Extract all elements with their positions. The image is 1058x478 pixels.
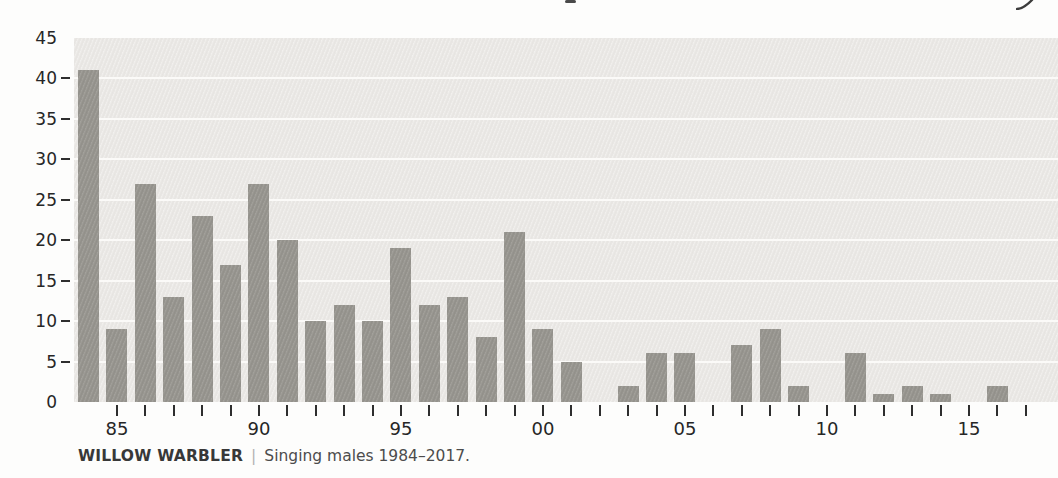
x-tick-2013 (911, 405, 913, 416)
x-tick-1989 (230, 405, 232, 416)
y-tick-10 (61, 320, 70, 322)
bar-2007 (731, 345, 752, 402)
bar-2014 (930, 394, 951, 402)
bar-2005 (674, 353, 695, 402)
cropped-text-artifact-right (1016, 0, 1034, 10)
bar-2012 (873, 394, 894, 402)
chart-caption: WILLOW WARBLER|Singing males 1984–2017. (78, 446, 470, 466)
x-label-15: 15 (947, 418, 991, 440)
y-tick-20 (61, 239, 70, 241)
y-label-10: 10 (7, 311, 57, 331)
bar-1987 (163, 297, 184, 402)
bar-2001 (561, 362, 582, 402)
x-tick-2002 (599, 405, 601, 416)
bar-1986 (135, 184, 156, 402)
y-label-45: 45 (7, 28, 57, 48)
bar-2009 (788, 386, 809, 402)
gridline-40 (74, 77, 1058, 79)
gridline-25 (74, 199, 1058, 201)
y-label-0: 0 (7, 392, 57, 412)
y-label-15: 15 (7, 271, 57, 291)
gridline-20 (74, 239, 1058, 241)
x-tick-2006 (712, 405, 714, 416)
y-tick-5 (61, 361, 70, 363)
y-tick-15 (61, 280, 70, 282)
caption-separator: | (251, 447, 256, 465)
x-label-90: 90 (237, 418, 281, 440)
x-tick-1988 (201, 405, 203, 416)
x-label-05: 05 (663, 418, 707, 440)
bar-2000 (532, 329, 553, 402)
x-tick-1997 (457, 405, 459, 416)
x-tick-1985 (116, 405, 118, 416)
plot-area (74, 38, 1058, 402)
x-tick-2011 (854, 405, 856, 416)
x-tick-1991 (286, 405, 288, 416)
x-tick-2003 (627, 405, 629, 416)
bar-1999 (504, 232, 525, 402)
x-tick-1996 (428, 405, 430, 416)
y-label-20: 20 (7, 230, 57, 250)
x-tick-2012 (883, 405, 885, 416)
x-label-85: 85 (95, 418, 139, 440)
bar-2013 (902, 386, 923, 402)
bar-1988 (192, 216, 213, 402)
bar-1985 (106, 329, 127, 402)
gridline-30 (74, 158, 1058, 160)
x-tick-1999 (514, 405, 516, 416)
x-tick-2008 (769, 405, 771, 416)
y-tick-25 (61, 199, 70, 201)
x-tick-1994 (372, 405, 374, 416)
bar-1984 (78, 70, 99, 402)
x-tick-1998 (485, 405, 487, 416)
x-tick-1992 (315, 405, 317, 416)
x-tick-2014 (940, 405, 942, 416)
x-tick-1986 (144, 405, 146, 416)
bar-1995 (390, 248, 411, 402)
bar-2011 (845, 353, 866, 402)
y-tick-40 (61, 77, 70, 79)
bar-1991 (277, 240, 298, 402)
x-tick-2015 (968, 405, 970, 416)
x-tick-1993 (343, 405, 345, 416)
y-label-35: 35 (7, 109, 57, 129)
bar-1996 (419, 305, 440, 402)
caption-description: Singing males 1984–2017. (264, 447, 470, 465)
x-tick-2017 (1025, 405, 1027, 416)
x-tick-2004 (656, 405, 658, 416)
caption-species-name: WILLOW WARBLER (78, 447, 243, 465)
bar-1997 (447, 297, 468, 402)
y-tick-35 (61, 118, 70, 120)
bar-1989 (220, 265, 241, 403)
x-tick-2007 (741, 405, 743, 416)
x-tick-1987 (173, 405, 175, 416)
scanned-book-page: 051015202530354045 85909500051015 WILLOW… (0, 0, 1058, 478)
x-tick-1990 (258, 405, 260, 416)
x-tick-2016 (996, 405, 998, 416)
x-label-10: 10 (805, 418, 849, 440)
bar-2004 (646, 353, 667, 402)
y-label-40: 40 (7, 68, 57, 88)
bar-1994 (362, 321, 383, 402)
x-tick-2005 (684, 405, 686, 416)
y-label-5: 5 (7, 352, 57, 372)
x-label-95: 95 (379, 418, 423, 440)
bar-2003 (618, 386, 639, 402)
y-label-25: 25 (7, 190, 57, 210)
bar-1990 (248, 184, 269, 402)
bar-2016 (987, 386, 1008, 402)
x-tick-2010 (826, 405, 828, 416)
bar-1993 (334, 305, 355, 402)
y-label-30: 30 (7, 149, 57, 169)
bar-1998 (476, 337, 497, 402)
cropped-text-artifact-left (565, 0, 576, 3)
bar-1992 (305, 321, 326, 402)
y-tick-30 (61, 158, 70, 160)
x-tick-1995 (400, 405, 402, 416)
x-tick-2000 (542, 405, 544, 416)
x-tick-2009 (798, 405, 800, 416)
x-label-00: 00 (521, 418, 565, 440)
x-tick-2001 (570, 405, 572, 416)
bar-2008 (760, 329, 781, 402)
gridline-35 (74, 118, 1058, 120)
